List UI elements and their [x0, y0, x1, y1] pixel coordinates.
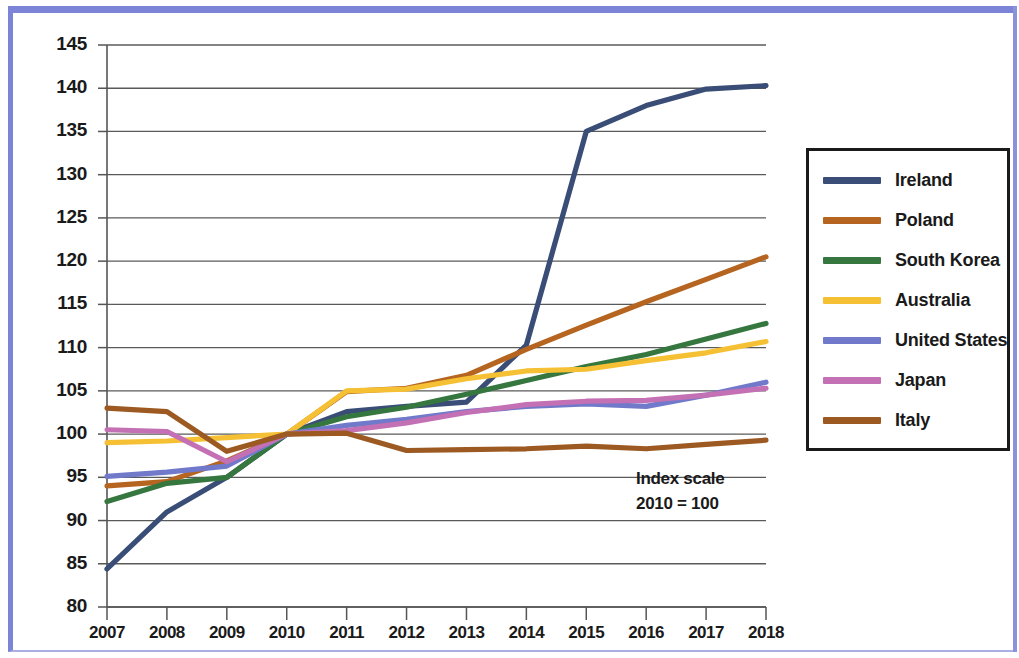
y-axis-label-135: 135 [35, 119, 87, 141]
legend-item-south-korea[interactable]: South Korea [823, 245, 1000, 275]
x-axis-label-2008: 2008 [137, 623, 197, 643]
legend-item-australia[interactable]: Australia [823, 285, 970, 315]
legend-item-united-states[interactable]: United States [823, 325, 1007, 355]
series-line-australia [107, 342, 766, 443]
axes [107, 45, 766, 607]
x-axis-label-2015: 2015 [556, 623, 616, 643]
legend-color-swatch-icon [823, 257, 881, 264]
y-axis-label-105: 105 [35, 379, 87, 401]
x-axis-label-2010: 2010 [257, 623, 317, 643]
y-axis-label-85: 85 [35, 552, 87, 574]
y-axis-label-110: 110 [35, 336, 87, 358]
legend-item-japan[interactable]: Japan [823, 365, 946, 395]
legend-color-swatch-icon [823, 177, 881, 184]
y-axis-label-95: 95 [35, 465, 87, 487]
y-axis-label-145: 145 [35, 33, 87, 55]
x-axis-label-2017: 2017 [676, 623, 736, 643]
legend-item-label: South Korea [895, 250, 1000, 271]
legend-color-swatch-icon [823, 377, 881, 384]
x-axis-label-2016: 2016 [616, 623, 676, 643]
legend-item-label: Ireland [895, 170, 953, 191]
annotation-line-1: Index scale [636, 467, 724, 492]
legend-item-italy[interactable]: Italy [823, 405, 930, 435]
legend-color-swatch-icon [823, 217, 881, 224]
x-axis-label-2018: 2018 [736, 623, 796, 643]
legend-item-ireland[interactable]: Ireland [823, 165, 953, 195]
chart-legend: IrelandPolandSouth KoreaAustraliaUnited … [806, 148, 1010, 451]
x-axis-label-2011: 2011 [317, 623, 377, 643]
y-axis-label-115: 115 [35, 292, 87, 314]
gridlines [107, 45, 766, 607]
index-scale-annotation: Index scale 2010 = 100 [636, 467, 724, 516]
x-axis-label-2014: 2014 [496, 623, 556, 643]
legend-color-swatch-icon [823, 297, 881, 304]
y-axis-label-120: 120 [35, 249, 87, 271]
x-axis-label-2009: 2009 [197, 623, 257, 643]
y-axis-label-100: 100 [35, 422, 87, 444]
x-axis-label-2012: 2012 [377, 623, 437, 643]
y-axis-label-90: 90 [35, 509, 87, 531]
legend-item-label: Australia [895, 290, 970, 311]
annotation-line-2: 2010 = 100 [636, 492, 724, 517]
legend-color-swatch-icon [823, 337, 881, 344]
legend-color-swatch-icon [823, 417, 881, 424]
x-axis-ticks [107, 607, 766, 620]
y-axis-label-80: 80 [35, 595, 87, 617]
legend-item-label: Poland [895, 210, 954, 231]
legend-item-label: United States [895, 330, 1007, 351]
y-axis-label-130: 130 [35, 163, 87, 185]
x-axis-label-2013: 2013 [436, 623, 496, 643]
legend-item-label: Japan [895, 370, 946, 391]
legend-item-poland[interactable]: Poland [823, 205, 954, 235]
y-axis-label-125: 125 [35, 206, 87, 228]
y-axis-label-140: 140 [35, 76, 87, 98]
y-axis-ticks [98, 45, 107, 607]
legend-item-label: Italy [895, 410, 930, 431]
x-axis-label-2007: 2007 [77, 623, 137, 643]
